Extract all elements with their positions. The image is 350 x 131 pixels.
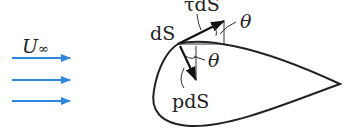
shear-force-label: τdS [184,0,220,14]
leader-tau [197,14,201,30]
leader-pds [181,68,184,88]
airfoil-outline [153,42,340,126]
leader-theta-top [220,22,236,34]
freestream-subscript: ∞ [38,41,49,56]
angle-label-bottom: θ [208,51,219,70]
surface-element-label: dS [150,24,175,43]
freestream-label: U∞ [22,37,49,56]
freestream-symbol: U [22,35,38,57]
freestream-arrows [12,58,70,101]
angle-label-top: θ [240,12,251,31]
pressure-force-label: pdS [172,92,209,111]
pressure-force-arrow [180,46,196,80]
angle-arc-top [214,26,217,36]
airfoil-force-diagram: U∞ dS τdS θ θ pdS [0,0,350,131]
